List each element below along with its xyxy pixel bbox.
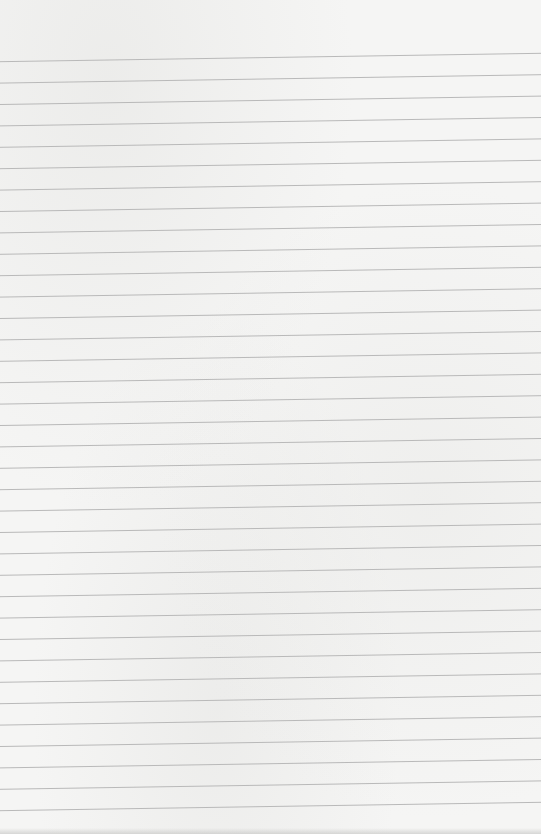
paper-bottom-edge <box>0 828 541 834</box>
ruled-line <box>0 717 541 725</box>
ruled-line <box>0 695 541 703</box>
ruled-line <box>0 524 541 532</box>
ruled-line <box>0 503 541 511</box>
ruled-line <box>0 246 541 254</box>
ruled-line <box>0 139 541 147</box>
ruled-line <box>0 674 541 682</box>
ruled-line <box>0 610 541 618</box>
ruled-line <box>0 267 541 275</box>
ruled-line <box>0 760 541 768</box>
ruled-line <box>0 160 541 168</box>
ruled-line <box>0 374 541 382</box>
ruled-line <box>0 53 541 61</box>
ruled-line <box>0 118 541 126</box>
ruled-line <box>0 225 541 233</box>
ruled-line <box>0 588 541 596</box>
ruled-line <box>0 182 541 190</box>
ruled-line <box>0 75 541 83</box>
ruled-line <box>0 546 541 554</box>
ruled-line <box>0 289 541 297</box>
lined-paper-sheet <box>0 0 541 834</box>
ruled-line <box>0 332 541 340</box>
ruled-line <box>0 802 541 810</box>
ruled-line <box>0 96 541 104</box>
ruled-lines <box>0 0 541 834</box>
ruled-line <box>0 439 541 447</box>
ruled-line <box>0 781 541 789</box>
ruled-line <box>0 631 541 639</box>
ruled-line <box>0 460 541 468</box>
ruled-line <box>0 396 541 404</box>
ruled-line <box>0 567 541 575</box>
ruled-line <box>0 353 541 361</box>
ruled-line <box>0 310 541 318</box>
ruled-line <box>0 653 541 661</box>
ruled-line <box>0 738 541 746</box>
ruled-line <box>0 203 541 211</box>
ruled-line <box>0 481 541 489</box>
ruled-line <box>0 417 541 425</box>
